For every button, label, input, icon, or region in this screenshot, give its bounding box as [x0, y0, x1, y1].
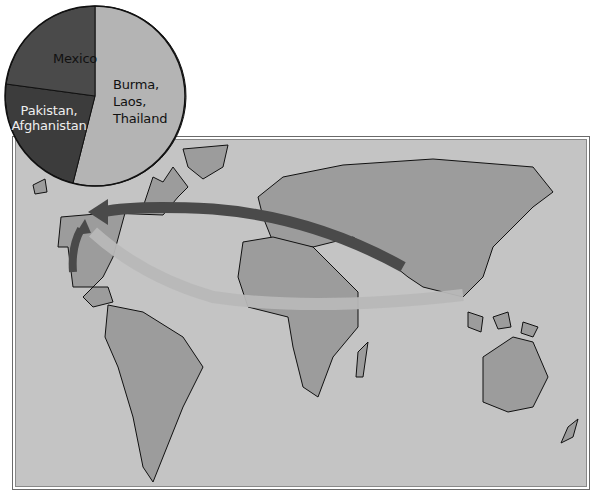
pie-label-pakistan-afghanistan: Pakistan, Afghanistan	[3, 103, 95, 133]
africa	[238, 237, 358, 397]
pie-label-line: Pakistan,	[3, 103, 95, 118]
pie-label-line: Afghanistan	[3, 118, 95, 133]
pie-label-mexico: Mexico	[35, 51, 115, 66]
madagascar	[356, 342, 368, 377]
pie-label-line: Thailand	[113, 110, 183, 127]
australia	[483, 337, 548, 412]
pie-label-burma-laos-thailand: Burma, Laos, Thailand	[113, 76, 183, 127]
pie-label-line: Laos,	[113, 93, 183, 110]
southeast-asia-islands	[468, 312, 538, 337]
pie-chart: Mexico Pakistan, Afghanistan Burma, Laos…	[3, 0, 187, 192]
pie-label-line: Burma,	[113, 76, 183, 93]
greenland	[183, 145, 228, 179]
new-zealand	[561, 419, 578, 443]
south-america	[105, 305, 203, 482]
